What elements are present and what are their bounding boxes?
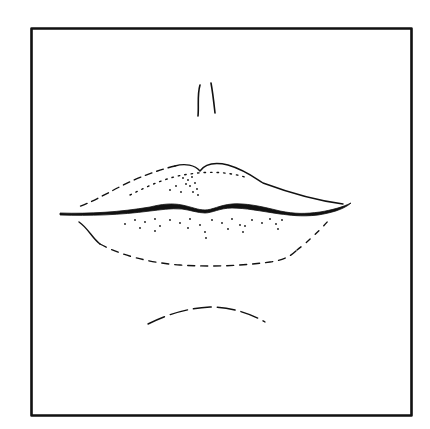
chin-crease	[148, 307, 265, 324]
upper-lip	[78, 164, 343, 207]
philtrum-lines	[198, 83, 215, 116]
lips-illustration	[0, 0, 430, 429]
lip-seam	[60, 203, 351, 216]
lower-lip	[79, 218, 329, 266]
square-frame	[32, 29, 412, 416]
